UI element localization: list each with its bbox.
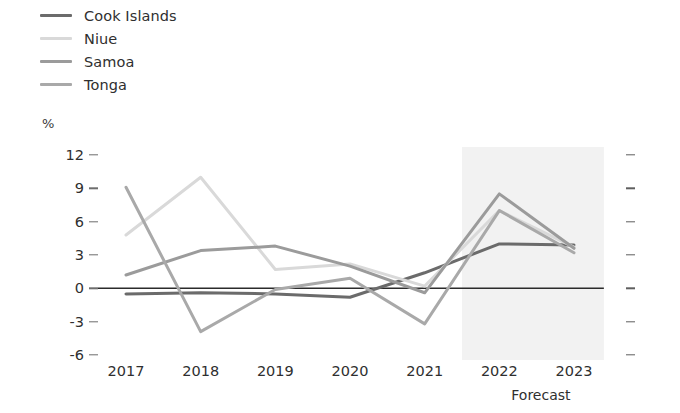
y-tick-mark-left: [89, 221, 98, 222]
y-tick-mark-right: [626, 254, 635, 255]
y-tick-mark-left: [89, 254, 98, 255]
y-tick-label: 3: [38, 247, 84, 263]
y-tick-label: -6: [38, 347, 84, 363]
y-tick-mark-right: [626, 188, 635, 189]
y-tick-mark-left: [89, 188, 98, 189]
x-tick-label: 2018: [166, 363, 236, 379]
y-tick-mark-right: [626, 354, 635, 355]
forecast-shaded-band: [462, 147, 604, 360]
y-tick-mark-right: [626, 154, 635, 155]
y-tick-mark-left: [89, 321, 98, 322]
y-tick-mark-right: [626, 221, 635, 222]
y-tick-label: -3: [38, 314, 84, 330]
y-tick-label: 0: [38, 280, 84, 296]
x-tick-label: 2023: [539, 363, 609, 379]
y-tick-label: 6: [38, 214, 84, 230]
x-tick-label: 2017: [91, 363, 161, 379]
y-tick-mark-right: [626, 321, 635, 322]
plot-area: [0, 0, 680, 413]
y-tick-mark-right: [626, 288, 635, 289]
y-tick-mark-left: [89, 288, 98, 289]
x-tick-label: 2022: [464, 363, 534, 379]
forecast-caption: Forecast: [481, 387, 601, 403]
chart-container: Cook Islands Niue Samoa Tonga % 129630-3…: [0, 0, 680, 413]
x-tick-label: 2019: [240, 363, 310, 379]
x-tick-label: 2020: [315, 363, 385, 379]
y-tick-mark-left: [89, 154, 98, 155]
y-tick-label: 12: [38, 147, 84, 163]
x-tick-label: 2021: [390, 363, 460, 379]
y-tick-label: 9: [38, 180, 84, 196]
y-tick-mark-left: [89, 354, 98, 355]
